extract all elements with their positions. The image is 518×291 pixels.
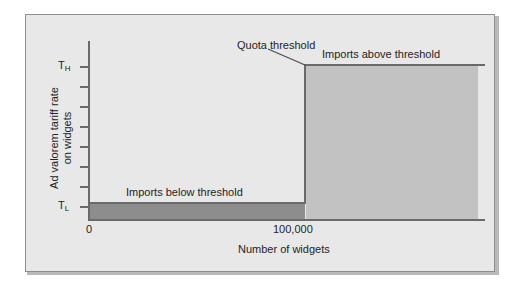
y-axis-tick [80,106,89,108]
y-axis-tick [80,146,89,148]
annotation-imports-below-threshold: Imports below threshold [126,186,243,198]
y-axis-tick [80,66,89,68]
y-axis-tick [80,126,89,128]
tariff-rate-quota-figure: TH TL 0 100,000 Number of widgets Ad val… [0,0,518,291]
step-line-riser [304,64,306,204]
annotation-quota-threshold: Quota threshold [237,39,315,51]
y-axis-tick [80,86,89,88]
x-axis-title: Number of widgets [238,243,330,255]
y-axis-tick [80,186,89,188]
y-axis-title-line2: on widgets [61,112,73,165]
y-axis-title: Ad valorem tariff rateon widgets [48,63,74,213]
x-axis-label-threshold: 100,000 [273,223,313,235]
y-axis-title-line1: Ad valorem tariff rate [48,87,60,189]
region-imports-above-threshold [306,65,478,219]
y-axis-tick [80,206,89,208]
step-line-high-tariff [304,64,485,66]
x-axis-label-origin: 0 [86,223,92,235]
step-line-low-tariff [89,202,306,204]
annotation-imports-above-threshold: Imports above threshold [322,48,440,60]
x-axis-line [88,219,485,221]
region-imports-below-threshold [89,203,305,219]
y-axis-tick [80,166,89,168]
plot-area: TH TL 0 100,000 Number of widgets Ad val… [0,0,518,291]
